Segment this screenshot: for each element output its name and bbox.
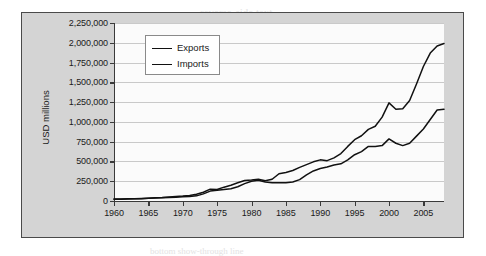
- chart-legend: Exports Imports: [145, 35, 220, 75]
- x-tick-label: 1975: [207, 208, 227, 218]
- x-tick-mark: [252, 202, 253, 206]
- y-tick-label: 0: [46, 196, 108, 206]
- chart-panel: 2,250,0002,000,0001,750,0001,500,0001,25…: [21, 12, 464, 238]
- x-tick-mark: [148, 202, 149, 206]
- legend-swatch-exports: [152, 48, 172, 49]
- x-tick-label: 2005: [414, 208, 434, 218]
- legend-label-exports: Exports: [177, 43, 209, 53]
- bleed-text: bottom show-through line: [150, 246, 244, 256]
- x-tick-mark: [286, 202, 287, 206]
- x-tick-label: 1990: [310, 208, 330, 218]
- y-tick-label: 2,250,000: [46, 18, 108, 28]
- x-tick-mark: [355, 202, 356, 206]
- series-line-exports: [114, 109, 444, 199]
- x-tick-label: 1960: [104, 208, 124, 218]
- x-tick-mark: [183, 202, 184, 206]
- x-axis-line: [114, 201, 444, 202]
- x-tick-label: 1970: [173, 208, 193, 218]
- y-axis-title: USD millions: [40, 73, 51, 163]
- legend-label-imports: Imports: [177, 59, 209, 69]
- y-tick-label: 2,000,000: [46, 38, 108, 48]
- x-tick-mark: [320, 202, 321, 206]
- y-tick-label: 1,250,000: [46, 97, 108, 107]
- y-tick-label: 1,750,000: [46, 58, 108, 68]
- x-tick-label: 1965: [139, 208, 159, 218]
- x-tick-label: 1980: [242, 208, 262, 218]
- legend-item-exports: Exports: [152, 40, 209, 56]
- y-tick-label: 1,500,000: [46, 77, 108, 87]
- y-tick-label: 250,000: [46, 176, 108, 186]
- x-tick-label: 1995: [345, 208, 365, 218]
- x-tick-mark: [389, 202, 390, 206]
- x-tick-mark: [423, 202, 424, 206]
- legend-swatch-imports: [152, 64, 172, 65]
- x-tick-mark: [217, 202, 218, 206]
- x-tick-label: 2000: [379, 208, 399, 218]
- y-tick-label: 750,000: [46, 137, 108, 147]
- x-tick-mark: [114, 202, 115, 206]
- y-tick-label: 500,000: [46, 156, 108, 166]
- legend-item-imports: Imports: [152, 56, 209, 72]
- y-tick-label: 1,000,000: [46, 117, 108, 127]
- x-tick-label: 1985: [276, 208, 296, 218]
